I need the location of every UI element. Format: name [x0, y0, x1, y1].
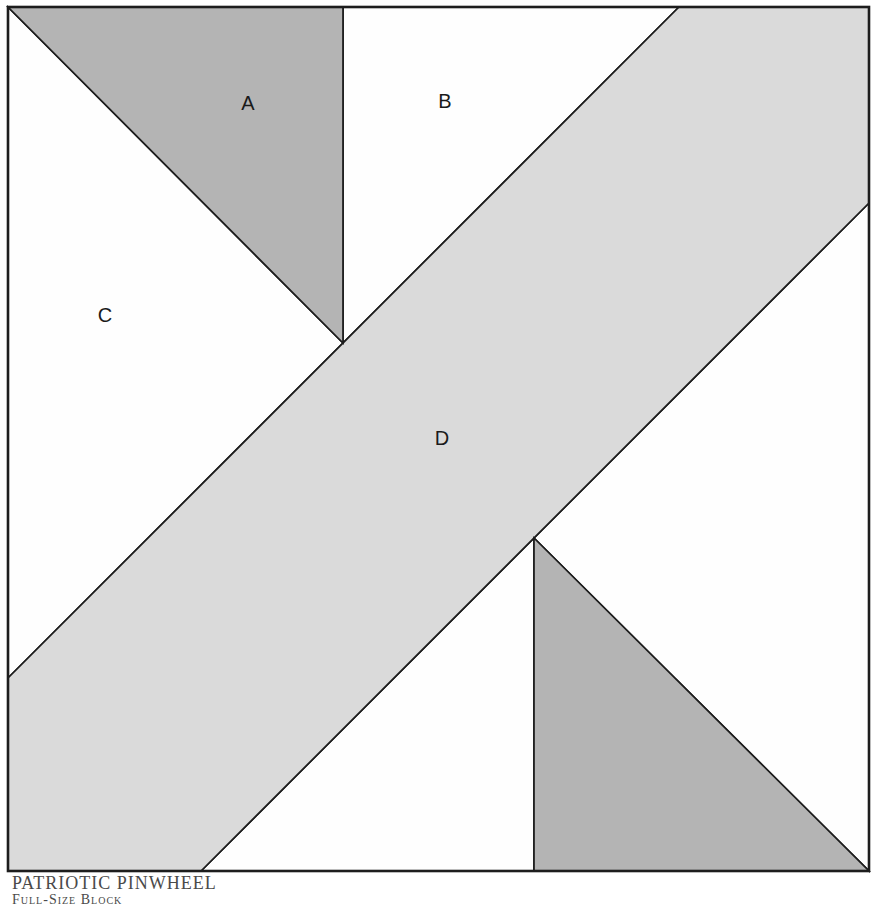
piece-label-c: C: [98, 304, 112, 326]
piece-label-d: D: [435, 427, 449, 449]
caption-title: PATRIOTIC PINWHEEL: [12, 874, 217, 893]
caption: PATRIOTIC PINWHEEL Full-Size Block: [12, 874, 217, 907]
quilt-block-diagram: A B C D: [0, 0, 877, 912]
scanned-page: A B C D PATRIOTIC PINWHEEL Full-Size Blo…: [0, 0, 877, 912]
piece-label-b: B: [438, 90, 451, 112]
piece-label-a: A: [241, 92, 255, 114]
caption-subtitle: Full-Size Block: [12, 893, 217, 907]
